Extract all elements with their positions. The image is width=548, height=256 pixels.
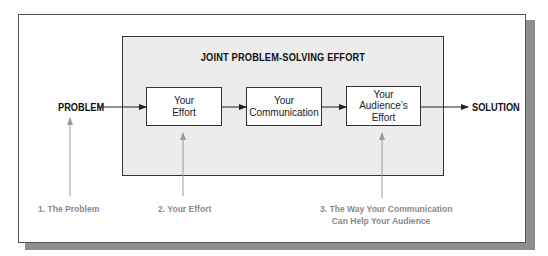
note-line: 1. The Problem [38, 203, 99, 214]
connector-layer [0, 0, 548, 256]
note-line: Can Help Your Audience [320, 215, 452, 227]
note-line: 2. Your Effort [158, 203, 211, 214]
note-1-the-problem: 1. The Problem [38, 203, 99, 215]
note-3-communication-helps-audience: 3. The Way Your Communication Can Help Y… [320, 203, 452, 227]
note-2-your-effort: 2. Your Effort [158, 203, 211, 215]
note-line: 3. The Way Your Communication [320, 203, 452, 215]
